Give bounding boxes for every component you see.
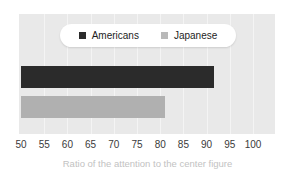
bar-americans (21, 66, 214, 88)
legend-swatch-japanese-icon (161, 32, 168, 39)
x-tick-label: 70 (108, 138, 119, 151)
legend-label-japanese: Japanese (174, 31, 217, 41)
bar-japanese (21, 96, 165, 118)
x-tick-label: 50 (15, 138, 26, 151)
x-axis-tick-labels: 50556065707580859095100 (19, 138, 275, 151)
x-tick-label: 90 (201, 138, 212, 151)
bar-chart-figure: Americans Japanese 505560657075808590951… (0, 0, 295, 179)
x-axis-title: Ratio of the attention to the center fig… (0, 158, 295, 170)
x-tick-label: 75 (131, 138, 142, 151)
x-tick-label: 60 (62, 138, 73, 151)
chart-legend: Americans Japanese (60, 24, 236, 47)
legend-entry-japanese: Japanese (161, 31, 217, 41)
legend-label-americans: Americans (92, 31, 139, 41)
x-tick-label: 100 (245, 138, 262, 151)
legend-entry-americans: Americans (79, 31, 139, 41)
x-tick-label: 65 (85, 138, 96, 151)
x-tick-label: 85 (178, 138, 189, 151)
x-tick-label: 80 (155, 138, 166, 151)
x-tick-label: 55 (39, 138, 50, 151)
x-tick-label: 95 (224, 138, 235, 151)
legend-swatch-americans-icon (79, 32, 86, 39)
